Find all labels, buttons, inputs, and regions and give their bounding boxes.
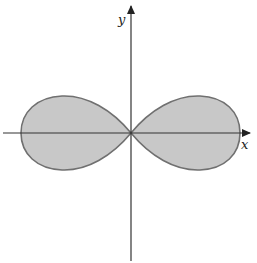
x-axis-label: x [241,137,248,152]
diagram-canvas: y x [0,0,257,263]
y-axis-label: y [118,12,125,27]
lemniscate-plot [0,0,257,263]
